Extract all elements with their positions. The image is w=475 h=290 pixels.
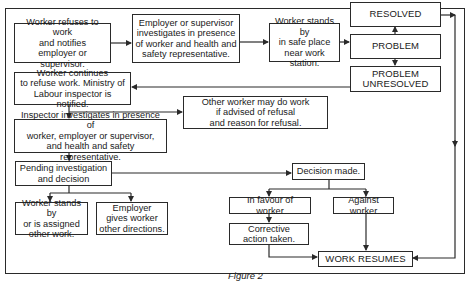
node-inspector-investigates: Inspector investigates in presence of wo… <box>14 119 167 153</box>
node-pending: Pending investigation and decision <box>15 161 112 186</box>
node-problem-unresolved: PROBLEM UNRESOLVED <box>350 66 441 92</box>
node-work-resumes: WORK RESUMES <box>318 251 413 267</box>
node-employer-investigates: Employer or supervisor investigates in p… <box>132 14 240 63</box>
node-in-favour: In favour of worker <box>229 197 311 214</box>
node-problem: PROBLEM <box>350 34 441 59</box>
node-worker-refuses: Worker refuses to work and notifies empl… <box>14 23 111 63</box>
node-other-worker: Other worker may do work if advised of r… <box>183 96 328 129</box>
node-worker-continues: Worker continues to refuse work. Ministr… <box>14 72 131 105</box>
node-employer-directions: Employer gives worker other directions. <box>96 202 168 235</box>
node-decision-made: Decision made. <box>292 163 365 180</box>
node-worker-stands-safe: Worker stands by in safe place near work… <box>269 23 340 62</box>
node-corrective: Corrective action taken. <box>229 223 309 245</box>
figure-caption: Figure 2 <box>228 270 263 281</box>
node-against: Against worker <box>333 197 394 214</box>
node-resolved: RESOLVED <box>350 2 441 27</box>
node-worker-stands-assigned: Worker stands by or is assigned other wo… <box>15 202 88 235</box>
